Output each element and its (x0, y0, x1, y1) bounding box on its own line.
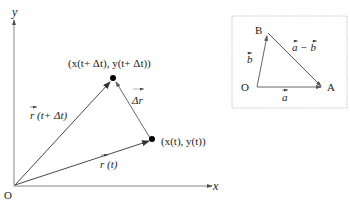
inset-vector-a-minus-b-label: a − b (292, 41, 316, 53)
vector-r-t-label: r (t) (100, 158, 118, 171)
vector-delta-r-label: Δr (131, 94, 143, 106)
inset-diagram: O A B b a a − b (232, 16, 347, 108)
r-t-label-group: r (t) (100, 155, 118, 171)
point-t-label: (x(t), y(t)) (161, 135, 206, 148)
origin-label: O (4, 189, 12, 201)
inset-point-o-label: O (241, 81, 249, 93)
inset-point-b-label: B (255, 24, 262, 36)
delta-r-label-group: Δr (131, 89, 144, 106)
vector-diagram: y x O (x(t), y(t)) (x(t+ Δt), y(t+ Δt)) … (0, 0, 350, 206)
point-t (149, 136, 155, 142)
point-t-dt (110, 75, 116, 81)
inset-vector-b (257, 36, 267, 87)
point-t-dt-label: (x(t+ Δt), y(t+ Δt)) (68, 57, 151, 70)
vector-r-t-dt-label: r (t+ Δt) (30, 109, 67, 122)
inset-vector-a-label: a (282, 91, 288, 103)
inset-point-a-label: A (327, 81, 335, 93)
vector-delta-r (116, 82, 150, 138)
r-t-dt-label-group: r (t+ Δt) (30, 107, 67, 122)
x-axis-label: x (212, 179, 219, 193)
inset-vector-b-label: b (247, 53, 253, 65)
y-axis-label: y (11, 5, 18, 19)
